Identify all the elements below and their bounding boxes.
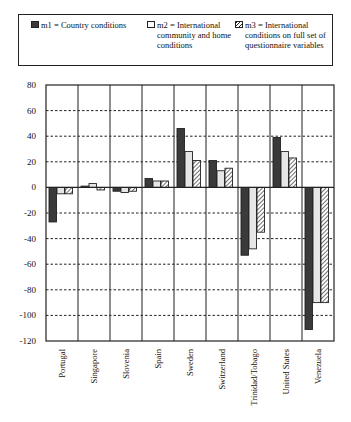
- bar-m2-spain: [153, 181, 161, 187]
- y-tick-labels: 806040200-20-40-60-80-100-120: [20, 80, 37, 346]
- x-tick-label: Portugal: [57, 348, 67, 377]
- bar-m2-slovenia: [121, 187, 129, 192]
- bar-m1-switzerland: [209, 161, 217, 188]
- x-tick-labels: PortugalSingaporeSloveniaSpainSwedenSwit…: [57, 348, 323, 405]
- x-tick-label: Slovenia: [121, 349, 131, 379]
- bar-m3-trinidad-tobago: [257, 187, 265, 232]
- bar-m3-united-states: [289, 158, 297, 187]
- x-tick-label: Singapore: [89, 349, 99, 384]
- bar-m2-sweden: [185, 152, 193, 188]
- y-tick-label: 60: [27, 106, 37, 116]
- y-tick-label: -100: [20, 310, 37, 320]
- bar-m2-trinidad-tobago: [249, 187, 257, 248]
- bar-chart: 806040200-20-40-60-80-100-120 PortugalSi…: [0, 0, 351, 422]
- bar-m2-venezuela: [313, 187, 321, 302]
- bar-m1-portugal: [49, 187, 57, 222]
- bar-m3-spain: [161, 181, 169, 187]
- bar-m1-trinidad-tobago: [241, 187, 249, 255]
- x-tick-label: Trinidad/Tobago: [249, 349, 259, 406]
- gridlines: [46, 85, 334, 341]
- y-tick-label: 20: [27, 157, 37, 167]
- bar-m2-switzerland: [217, 171, 225, 188]
- x-tick-label: United States: [281, 349, 291, 395]
- bar-m3-sweden: [193, 161, 201, 188]
- y-tick-label: -20: [24, 208, 36, 218]
- x-tick-label: Sweden: [185, 348, 195, 376]
- bar-m1-spain: [145, 178, 153, 187]
- y-tick-label: -120: [20, 336, 37, 346]
- y-tick-label: -80: [24, 285, 36, 295]
- x-tick-label: Venezuela: [313, 349, 323, 384]
- bar-m3-venezuela: [321, 187, 329, 302]
- bar-m3-switzerland: [225, 168, 233, 187]
- y-tick-label: -60: [24, 259, 36, 269]
- bar-m2-united-states: [281, 152, 289, 188]
- y-tick-label: 40: [27, 131, 37, 141]
- bar-m1-sweden: [177, 129, 185, 188]
- y-tick-label: -40: [24, 234, 36, 244]
- bar-m1-venezuela: [305, 187, 313, 329]
- x-tick-label: Spain: [153, 348, 163, 368]
- x-tick-label: Switzerland: [217, 348, 227, 389]
- bar-m1-united-states: [273, 137, 281, 187]
- bar-m3-portugal: [65, 187, 73, 193]
- y-tick-label: 80: [27, 80, 37, 90]
- y-tick-label: 0: [32, 182, 37, 192]
- bar-m2-portugal: [57, 187, 65, 193]
- bars: [49, 129, 329, 330]
